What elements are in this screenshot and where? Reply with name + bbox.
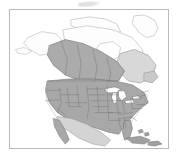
lake-erie <box>125 100 135 104</box>
north-america-map[interactable] <box>10 10 168 148</box>
map-figure <box>0 0 180 160</box>
scan-artifact <box>78 1 100 7</box>
map-frame[interactable] <box>9 9 169 149</box>
